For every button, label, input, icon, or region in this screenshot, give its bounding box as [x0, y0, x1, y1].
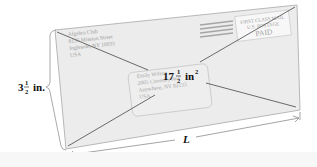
area-numerator: 1: [177, 68, 180, 75]
area-whole: 17: [163, 70, 175, 82]
return-address-line-4: USA: [70, 51, 82, 58]
area-unit: in: [185, 70, 194, 82]
height-denominator: 2: [25, 88, 28, 95]
bottom-band: [0, 152, 317, 167]
height-numerator: 1: [25, 79, 28, 86]
envelope-area-diagram: FIRST CLASS MAIL U.S. POSTAGE PAID Algeb…: [0, 0, 317, 167]
height-whole: 3: [18, 81, 24, 93]
area-denominator: 2: [177, 77, 180, 84]
height-label: 3 1 2 in.: [18, 79, 45, 95]
length-label: L: [182, 133, 190, 145]
height-unit: in.: [33, 81, 45, 93]
area-exponent: 2: [195, 68, 198, 75]
